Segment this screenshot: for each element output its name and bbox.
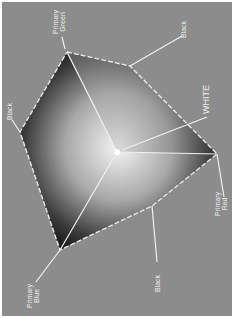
vertex-label-primary-blue: Primary Blue (26, 284, 40, 308)
vertex-label-black-bottom: Black (154, 275, 161, 292)
vertex-label-black-left: Black (6, 103, 13, 120)
vertex-label-white: WHITE (202, 85, 211, 114)
vertex-label-black-top: Black (180, 21, 187, 38)
color-cube-diagram: Primary Green Black WHITE Primary Red Bl… (2, 2, 232, 316)
vertex-label-primary-red: Primary Red (214, 192, 228, 216)
cube-graphic (2, 2, 232, 316)
vertex-label-primary-green: Primary Green (52, 10, 66, 34)
